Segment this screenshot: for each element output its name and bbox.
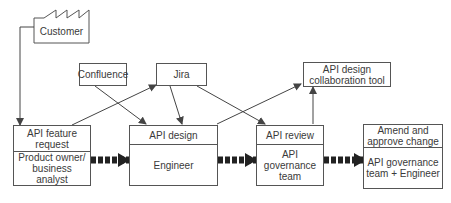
collab-tool-label: API design collaboration tool [304, 64, 390, 86]
amend-node: Amend and approve change API governance … [363, 124, 443, 189]
amend-role: API governance team + Engineer [364, 147, 442, 188]
api-design-role: Engineer [130, 144, 217, 185]
api-review-node: API review API governance team [256, 125, 324, 186]
api-review-role: API governance team [257, 144, 323, 185]
api-design-title: API design [130, 126, 217, 144]
feature-request-node: API feature request Product owner/ busin… [13, 125, 91, 186]
feature-request-title: API feature request [14, 126, 90, 151]
customer-label: Customer [34, 26, 89, 37]
jira-node: Jira [156, 63, 207, 86]
collab-tool-node: API design collaboration tool [303, 62, 391, 87]
confluence-label: Confluence [78, 69, 129, 80]
jira-label: Jira [173, 69, 189, 80]
feature-request-role: Product owner/ business analyst [14, 151, 90, 185]
api-review-title: API review [257, 126, 323, 144]
confluence-node: Confluence [79, 63, 127, 86]
api-design-node: API design Engineer [129, 125, 218, 186]
amend-title: Amend and approve change [364, 125, 442, 147]
